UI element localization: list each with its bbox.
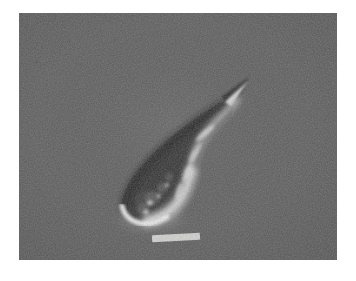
micrograph-photo: [19, 13, 337, 260]
film-grain-dark: [19, 13, 337, 260]
micrograph-canvas: [19, 13, 337, 260]
page-background: [0, 0, 356, 281]
